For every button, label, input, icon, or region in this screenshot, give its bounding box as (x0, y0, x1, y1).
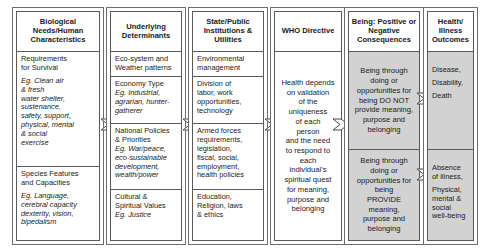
cell-line: belonging (355, 125, 413, 135)
cell-national-policies: National Policies & Priorities Eg. War/p… (111, 124, 181, 190)
cell-cultural-spiritual-values: Cultural & Spiritual Values Eg. Justice (111, 190, 181, 240)
cell-division-of-labor: Division of labor, work opportunities, t… (193, 77, 263, 124)
cell-armed-forces-policies: Armed forces requirements, legislation, … (193, 124, 263, 190)
cell-eg-line: wealth/power (115, 171, 177, 180)
cell-line: Being through (355, 66, 413, 76)
cell-line: PROVIDE (357, 195, 411, 205)
column-biological-needs: Biological Needs/Human Characteristics R… (12, 7, 104, 245)
cell-line: & ethics (197, 211, 259, 220)
column-header-health-illness-outcomes: Health/ Illness Outcomes (428, 12, 473, 52)
cell-line: spiritual quest (281, 175, 334, 185)
cell-line: purpose and (281, 195, 334, 205)
cell-line: of illness, (432, 173, 469, 182)
cell-line: on validation (281, 88, 334, 98)
cell-line: belonging (281, 204, 334, 214)
column-state-public-institutions: State/Public Institutions & Utilities En… (188, 7, 268, 245)
cell-line: Death (432, 92, 469, 101)
column-being-consequences: Being: Positive or Negative Consequences… (344, 7, 424, 245)
cell-environmental-management: Environmental management (193, 52, 263, 77)
cell-line: Weather patterns (115, 64, 177, 73)
column-header-state-public-institutions: State/Public Institutions & Utilities (193, 12, 263, 52)
cell-line: uniqueness (281, 107, 334, 117)
cell-eg-line: exercise (21, 139, 95, 148)
cell-eg-line: Eg. Justice (115, 211, 177, 220)
cell-line: Disability, (432, 79, 469, 88)
who-directive-text: Health depends on validation of the uniq… (281, 78, 334, 214)
cell-line: individual's (281, 165, 334, 175)
cell-line: and the need (281, 136, 334, 146)
cell-line: being DO NOT (355, 96, 413, 106)
cell-line: opportunities for (357, 176, 411, 186)
cell-line: each (281, 156, 334, 166)
cell-line: to respond to (281, 146, 334, 156)
column-header-who-directive: WHO Directive (275, 12, 341, 52)
cell-eg-line: gatherer (115, 107, 177, 116)
cell-line: purpose and (357, 214, 411, 224)
cell-line: opportunities for (355, 86, 413, 96)
cell-line: being (357, 185, 411, 195)
cell-line: meaning, (357, 205, 411, 215)
column-underlying-determinants: Underlying Determinants Eco-system and W… (106, 7, 186, 245)
cell-ecosystem-weather: Eco-system and Weather patterns (111, 52, 181, 77)
cell-education-religion-laws: Education, Religion, laws & ethics (193, 190, 263, 240)
cell-requirements-for-survival: Requirements for Survival Eg. Clean air … (17, 52, 99, 167)
being-positive-text: Being through doing or opportunities for… (357, 156, 411, 234)
cell-line: Being through (357, 156, 411, 166)
cell-species-features: Species Features and Capacities Eg. Lang… (17, 167, 99, 240)
column-header-being-consequences: Being: Positive or Negative Consequences (349, 12, 419, 52)
being-negative-text: Being through doing or opportunities for… (355, 66, 413, 134)
cell-line: for Survival (21, 64, 95, 73)
cell-being-does-not-provide: Being through doing or opportunities for… (349, 52, 419, 150)
cell-line: well-being (432, 212, 469, 221)
cell-line: health policies (197, 171, 259, 180)
cell-disease-disability-death: Disease, Disability, Death (428, 52, 473, 150)
cell-line: person (281, 127, 334, 137)
determinants-of-health-diagram: Biological Needs/Human Characteristics R… (0, 0, 482, 252)
cell-line: technology (197, 107, 259, 116)
cell-line: Disease, (432, 66, 469, 75)
cell-line: of the (281, 97, 334, 107)
cell-line: purpose and (355, 115, 413, 125)
cell-line: doing or (355, 76, 413, 86)
cell-who-directive-statement: Health depends on validation of the uniq… (275, 52, 341, 240)
cell-line: doing or (357, 166, 411, 176)
column-health-illness-outcomes: Health/ Illness Outcomes Disease, Disabi… (423, 7, 478, 245)
cell-line: Health depends (281, 78, 334, 88)
cell-economy-type: Economy Type Eg. Industrial, agrarian, h… (111, 77, 181, 124)
cell-being-provides: Being through doing or opportunities for… (349, 150, 419, 240)
cell-line: belonging (357, 224, 411, 234)
cell-line: for meaning, (281, 185, 334, 195)
cell-line: and Capacities (21, 179, 95, 188)
cell-absence-of-illness-wellbeing: Absence of illness, Physical, mental & s… (428, 150, 473, 240)
column-header-biological-needs: Biological Needs/Human Characteristics (17, 12, 99, 52)
cell-line: provide meaning, (355, 105, 413, 115)
column-header-underlying-determinants: Underlying Determinants (111, 12, 181, 52)
cell-line: management (197, 64, 259, 73)
cell-line: of each (281, 117, 334, 127)
cell-eg-line: bipedalism (21, 218, 95, 227)
